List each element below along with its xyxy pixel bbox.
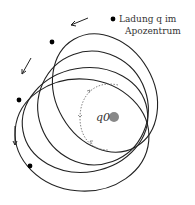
orbit-2 (22, 36, 164, 181)
orbit-diagram: q0 Ladung q im Apozentrum (0, 0, 195, 205)
orbit-3 (14, 58, 156, 182)
charge-dot (50, 40, 55, 45)
charge-label-line1: Ladung q im (119, 14, 177, 24)
orbit-4 (10, 73, 153, 196)
orbits (10, 15, 178, 197)
arrow-small-icon (87, 90, 90, 93)
direction-arrows (13, 18, 88, 145)
central-charge (109, 112, 119, 122)
charge-dot (28, 164, 33, 169)
dotted-arrows (78, 90, 93, 144)
arrow-icon (71, 18, 88, 26)
arrow-icon (13, 126, 17, 145)
charge-dot (111, 17, 116, 22)
charge-dot (17, 98, 22, 103)
charge-dots (17, 17, 116, 169)
arrow-icon (22, 58, 31, 74)
central-charge-label: q0 (96, 111, 110, 124)
charge-label-line2: Apozentrum (124, 26, 181, 36)
